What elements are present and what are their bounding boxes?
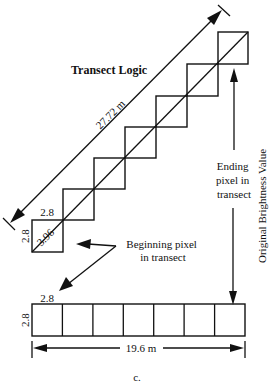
arrowhead-up-icon bbox=[230, 68, 238, 82]
ending-pixel-label: Ending pixel in transect bbox=[216, 160, 252, 200]
arrowhead-left-icon bbox=[33, 344, 47, 352]
diagram-title: Transect Logic bbox=[71, 63, 148, 77]
ending-pixel-arrows bbox=[229, 68, 238, 305]
pixel-width-label: 2.8 bbox=[40, 206, 54, 218]
pixel bbox=[187, 64, 218, 96]
pixel-height-label: 2.8 bbox=[19, 229, 31, 243]
transect-pixel-row bbox=[32, 304, 245, 336]
beginning-pixel-arrows bbox=[59, 239, 116, 291]
brightness-axis-label: Original Brightness Value bbox=[256, 149, 268, 263]
figure-caption: c. bbox=[133, 371, 141, 383]
arrowhead-down-left-icon bbox=[59, 277, 73, 291]
pixel-diagonal-label: 3.96 bbox=[34, 226, 56, 248]
beginning-pixel-label: Beginning pixel in transect bbox=[126, 238, 199, 263]
arrowhead-right-icon bbox=[230, 344, 244, 352]
arrowhead-down-icon bbox=[229, 291, 237, 305]
diagonal-length-label: 27.72 m bbox=[93, 97, 127, 131]
dimension-tick bbox=[218, 5, 230, 16]
transect-diagram: Transect Logic 27.72 m 2.8 2.8 3.96 Endi… bbox=[0, 0, 271, 385]
diagonal-dimension-line bbox=[3, 5, 230, 230]
pixel bbox=[156, 96, 187, 127]
arrowhead-left-icon bbox=[76, 239, 91, 249]
row-length-label: 19.6 m bbox=[126, 342, 157, 354]
row-pixel-width-label: 2.8 bbox=[40, 292, 54, 304]
row-pixel-height-label: 2.8 bbox=[19, 313, 31, 327]
